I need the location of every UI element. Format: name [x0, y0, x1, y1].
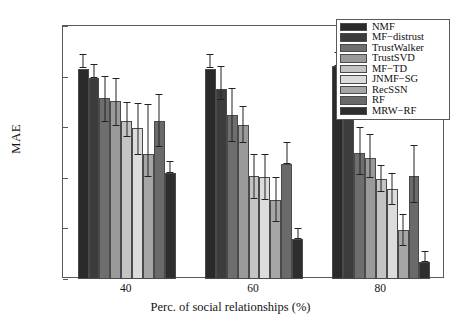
error-bar	[281, 142, 292, 163]
bar	[376, 179, 387, 279]
y-axis-label-text: MAE	[8, 124, 24, 154]
y-tick-mark	[63, 228, 68, 229]
error-bar	[143, 104, 154, 177]
legend-swatch-icon	[340, 33, 367, 41]
legend-swatch-icon	[340, 86, 367, 94]
bar	[99, 98, 110, 279]
error-bar	[227, 88, 238, 143]
error-bar-cap-bottom	[218, 99, 225, 100]
legend-swatch-icon	[340, 54, 367, 62]
error-bar-cap-bottom	[134, 154, 141, 155]
error-bar-cap-bottom	[294, 238, 301, 239]
error-bar	[154, 94, 165, 148]
error-bar-cap-bottom	[421, 261, 428, 262]
error-bar-line	[286, 142, 287, 163]
error-bar-cap-top	[207, 54, 214, 55]
error-bar-cap-bottom	[356, 174, 363, 175]
error-bar-cap-bottom	[240, 142, 247, 143]
x-tick-label: 40	[120, 282, 132, 294]
error-bar-cap-bottom	[367, 177, 374, 178]
bar	[121, 121, 132, 279]
error-bar-cap-bottom	[207, 67, 214, 68]
error-bar-cap-bottom	[283, 163, 290, 164]
error-bar-cap-top	[250, 154, 257, 155]
legend-swatch-icon	[340, 23, 367, 31]
error-bar-line	[232, 88, 233, 143]
error-bar-cap-bottom	[400, 245, 407, 246]
error-bar-cap-bottom	[80, 67, 87, 68]
legend-item[interactable]: RecSSN	[340, 85, 446, 95]
y-axis-label: MAE	[2, 0, 30, 278]
bar	[110, 101, 121, 279]
error-bar-line	[115, 78, 116, 127]
error-bar-line	[381, 165, 382, 192]
error-bar-line	[414, 145, 415, 203]
error-bar-cap-top	[112, 78, 119, 79]
error-bar-line	[359, 127, 360, 175]
bar	[205, 69, 216, 279]
error-bar-line	[243, 106, 244, 143]
error-bar	[376, 165, 387, 192]
y-tick-mark	[63, 127, 68, 128]
legend-item[interactable]: JNMF−SG	[340, 74, 446, 84]
error-bar-cap-top	[90, 64, 97, 65]
error-bar-line	[210, 54, 211, 68]
error-bar-cap-bottom	[145, 176, 152, 177]
bar	[343, 96, 354, 279]
error-bar	[270, 177, 281, 223]
error-bar-cap-top	[294, 228, 301, 229]
error-bar-cap-bottom	[261, 199, 268, 200]
error-bar	[292, 228, 303, 238]
error-bar	[365, 134, 376, 178]
error-bar-line	[392, 173, 393, 205]
error-bar-cap-bottom	[378, 191, 385, 192]
bar	[292, 239, 303, 279]
x-axis-label: Perc. of social relationships (%)	[0, 300, 461, 315]
error-bar	[110, 78, 121, 127]
error-bar-cap-top	[167, 161, 174, 162]
error-bar-cap-top	[229, 88, 236, 89]
error-bar-line	[221, 66, 222, 99]
error-bar	[205, 54, 216, 68]
error-bar-cap-top	[134, 103, 141, 104]
y-tick-mark	[63, 178, 68, 179]
error-bar	[165, 161, 176, 173]
bar	[238, 125, 249, 279]
error-bar-line	[83, 54, 84, 68]
error-bar	[132, 103, 143, 155]
error-bar-cap-top	[218, 66, 225, 67]
error-bar	[387, 173, 398, 205]
error-bar	[89, 64, 100, 77]
error-bar-line	[159, 94, 160, 148]
error-bar-cap-bottom	[112, 125, 119, 126]
bar	[281, 164, 292, 279]
error-bar-cap-bottom	[156, 146, 163, 147]
error-bar	[259, 154, 270, 201]
error-bar-line	[370, 134, 371, 178]
error-bar	[216, 66, 227, 99]
error-bar-cap-bottom	[411, 202, 418, 203]
error-bar-line	[137, 103, 138, 155]
error-bar-cap-top	[145, 104, 152, 105]
bar	[216, 89, 227, 279]
error-bar-cap-top	[123, 102, 130, 103]
error-bar-cap-bottom	[272, 221, 279, 222]
legend-item-label: MRW−RF	[372, 106, 416, 117]
error-bar-cap-top	[240, 106, 247, 107]
x-tick-label: 60	[247, 282, 259, 294]
legend-item[interactable]: RF	[340, 95, 446, 105]
error-bar	[78, 54, 89, 68]
error-bar-cap-top	[367, 134, 374, 135]
error-bar-cap-top	[400, 214, 407, 215]
error-bar	[398, 214, 409, 245]
error-bar-line	[253, 154, 254, 200]
error-bar-cap-top	[378, 165, 385, 166]
legend-swatch-icon	[340, 107, 367, 115]
error-bar	[249, 154, 260, 200]
error-bar-cap-bottom	[250, 198, 257, 199]
error-bar-line	[104, 76, 105, 123]
legend-item[interactable]: MRW−RF	[340, 106, 446, 116]
error-bar	[121, 102, 132, 137]
error-bar-line	[403, 214, 404, 245]
x-tick-label: 80	[375, 282, 387, 294]
